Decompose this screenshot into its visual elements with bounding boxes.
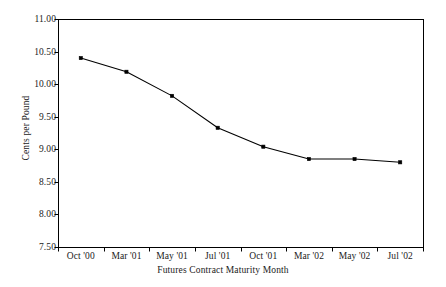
data-point-marker — [170, 94, 173, 97]
data-point-marker — [307, 157, 310, 160]
data-point-marker — [262, 145, 265, 148]
plot-area — [0, 0, 446, 287]
x-axis-tick-label: Mar '01 — [111, 250, 141, 262]
x-axis-tick-labels: Oct '00Mar '01May '01Jul '01Oct '01Mar '… — [0, 250, 446, 264]
x-axis-tick-label: Oct '01 — [249, 250, 277, 262]
x-axis-tick-label: Mar '02 — [294, 250, 324, 262]
x-axis-tick-label: Jul '02 — [388, 250, 413, 262]
x-axis-tick-label: May '01 — [156, 250, 188, 262]
chart-figure: Cents per Pound 11.0010.5010.009.509.008… — [0, 0, 446, 287]
data-point-marker — [399, 161, 402, 164]
x-axis-tick-label: May '02 — [339, 250, 371, 262]
data-point-marker — [353, 157, 356, 160]
data-point-marker — [216, 126, 219, 129]
x-axis-tick-label: Jul '01 — [205, 250, 230, 262]
x-axis-title: Futures Contract Maturity Month — [0, 265, 446, 275]
x-axis-tick-label: Oct '00 — [67, 250, 95, 262]
plot-border — [59, 20, 424, 248]
data-point-marker — [125, 70, 128, 73]
data-point-marker — [79, 56, 82, 59]
